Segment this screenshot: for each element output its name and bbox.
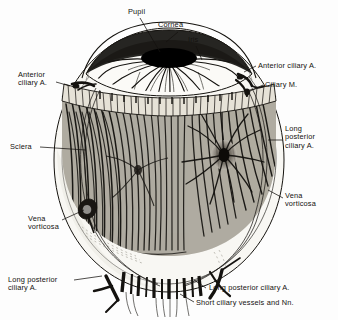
eye-anatomy-figure [0,0,338,320]
label-short-ciliary-vessels: Short ciliary vessels and Nn. [196,299,294,307]
label-anterior-ciliary-artery-right: Anterior ciliary A. [258,62,316,70]
label-cornea: Cornea [158,21,183,29]
label-ciliary-muscle: Ciliary M. [265,81,297,89]
label-vena-vorticosa-left: Vena vorticosa [28,215,59,232]
label-long-posterior-ciliary-artery-right: Long posterior ciliary A. [285,125,315,150]
label-sclera: Sclera [10,143,32,151]
label-anterior-ciliary-artery-left: Anterior ciliary A. [18,71,47,88]
label-vena-vorticosa-right: Vena vorticosa [285,192,316,209]
label-long-posterior-ciliary-artery-bottom: Long posterior ciliary A. [209,284,290,292]
label-long-posterior-ciliary-artery-left: Long posterior ciliary A. [8,276,57,293]
label-pupil: Pupil [128,8,145,16]
label-iris: Iris [188,36,198,44]
